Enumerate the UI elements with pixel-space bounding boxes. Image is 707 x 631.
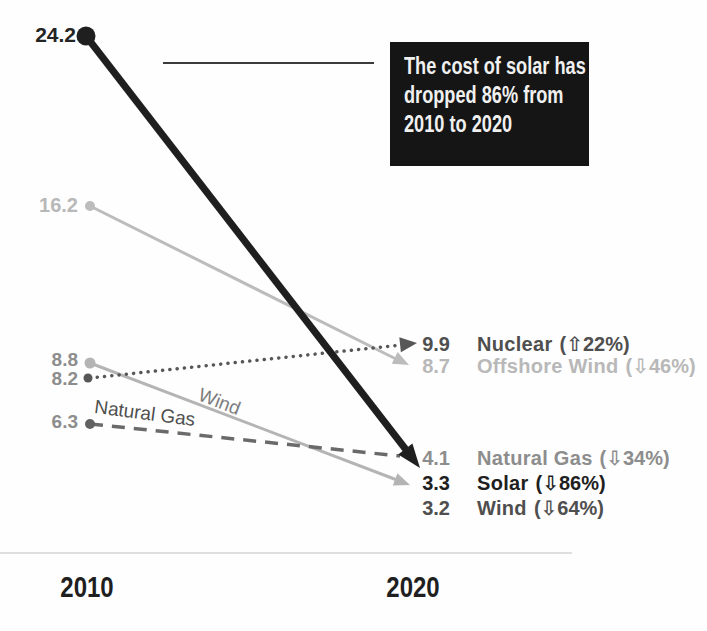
- axis-label-2020: 2020: [379, 570, 446, 604]
- annotation-text: The cost of solar has dropped 86% from 2…: [404, 52, 592, 139]
- series-label-wind: Wind: [477, 497, 527, 520]
- annotation-box: The cost of solar has dropped 86% from 2…: [390, 42, 589, 166]
- nuclear-line: [90, 345, 401, 378]
- solar-start-dot: [77, 27, 96, 46]
- nuclear-start-dot: [84, 374, 93, 383]
- offshore-wind-line: [90, 206, 396, 359]
- row-2020-wind: 3.2 Wind (⇩64%): [398, 496, 698, 520]
- natural-gas-start-dot: [85, 419, 95, 429]
- change-badge-nuclear: (⇧22%): [559, 332, 629, 356]
- change-badge-solar: (⇩86%): [536, 471, 606, 495]
- value-2020-offshore-wind: 8.7: [398, 355, 450, 378]
- annotation-line-1: The cost of solar has: [404, 52, 592, 81]
- series-label-nuclear: Nuclear: [477, 333, 552, 356]
- value-2010-natural-gas: 6.3: [26, 411, 78, 433]
- row-2020-offshore-wind: 8.7 Offshore Wind (⇩46%): [398, 354, 698, 378]
- row-2020-solar: 3.3 Solar (⇩86%): [398, 471, 698, 495]
- annotation-line-3: 2010 to 2020: [404, 110, 592, 139]
- value-2020-natural-gas: 4.1: [398, 447, 450, 470]
- series-label-solar: Solar: [477, 472, 529, 495]
- value-2010-offshore-wind: 16.2: [26, 194, 78, 217]
- solar-line: [86, 36, 407, 451]
- annotation-line-2: dropped 86% from: [404, 81, 592, 110]
- value-2020-wind: 3.2: [398, 497, 450, 520]
- series-label-offshore-wind: Offshore Wind: [477, 355, 619, 378]
- axis-label-2010: 2010: [53, 570, 120, 604]
- change-badge-natural-gas: (⇩34%): [600, 446, 670, 470]
- wind-start-dot: [85, 358, 96, 369]
- change-badge-wind: (⇩64%): [534, 496, 604, 520]
- chart-canvas: [0, 0, 707, 631]
- change-badge-offshore-wind: (⇩46%): [626, 354, 696, 378]
- row-2020-natural-gas: 4.1 Natural Gas (⇩34%): [398, 446, 698, 470]
- offshore-wind-start-dot: [85, 201, 95, 211]
- value-2010-solar: 24.2: [24, 23, 76, 47]
- slope-chart: 24.2 16.2 8.8 8.2 6.3 9.9 Nuclear (⇧22%)…: [0, 0, 707, 631]
- row-2020-nuclear: 9.9 Nuclear (⇧22%): [398, 332, 698, 356]
- value-2020-solar: 3.3: [398, 472, 450, 495]
- series-label-natural-gas: Natural Gas: [477, 447, 593, 470]
- natural-gas-line: [90, 424, 400, 456]
- value-2010-nuclear: 8.2: [26, 368, 78, 390]
- value-2020-nuclear: 9.9: [398, 333, 450, 356]
